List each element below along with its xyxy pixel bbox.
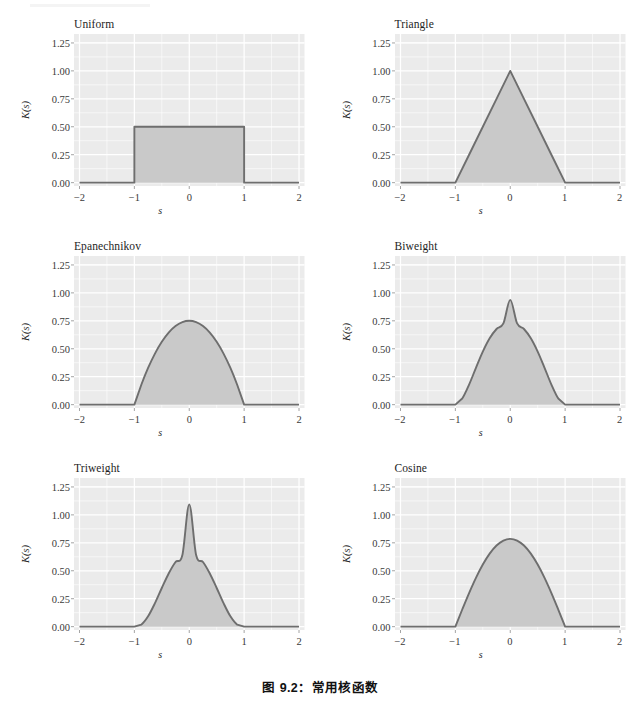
y-tick-label: 0.00 [372, 399, 390, 410]
panel-title: Cosine [395, 462, 428, 474]
y-tick-label: 0.25 [372, 593, 390, 604]
x-tick-label: −2 [74, 414, 85, 425]
x-tick-label: 2 [617, 414, 622, 425]
y-axis-label: K(s) [340, 323, 351, 341]
x-tick-label: −2 [394, 414, 405, 425]
y-tick-label: 1.00 [372, 509, 390, 520]
x-tick-label: 2 [296, 414, 301, 425]
y-tick-label: 0.50 [52, 343, 70, 354]
x-tick-label: −1 [129, 192, 140, 203]
y-tick-label: 1.00 [372, 287, 390, 298]
x-tick-label: 1 [562, 192, 567, 203]
x-tick-label: −1 [449, 636, 460, 647]
x-axis-label: s [321, 649, 641, 660]
y-tick-label: 0.25 [52, 593, 70, 604]
panel-uniform: Uniform0.000.250.500.751.001.25−2−1012K(… [0, 10, 321, 232]
y-tick-label: 0.50 [372, 343, 390, 354]
x-tick-label: 0 [507, 636, 512, 647]
x-tick-label: 1 [242, 636, 247, 647]
y-tick-label: 1.00 [372, 65, 390, 76]
page-artifact [30, 4, 150, 7]
y-tick-label: 0.75 [52, 315, 70, 326]
x-tick-label: 1 [242, 414, 247, 425]
y-tick-label: 0.25 [52, 149, 70, 160]
panel-triweight: Triweight0.000.250.500.751.001.25−2−1012… [0, 454, 321, 676]
x-tick-label: −2 [394, 636, 405, 647]
x-axis-label: s [0, 649, 321, 660]
x-tick-label: 1 [242, 192, 247, 203]
y-axis-label: K(s) [20, 545, 31, 563]
x-axis-label: s [321, 205, 641, 216]
x-tick-label: 2 [296, 192, 301, 203]
y-tick-label: 0.75 [52, 93, 70, 104]
x-tick-label: 0 [187, 414, 192, 425]
panel-title: Triangle [395, 18, 434, 30]
panel-title: Biweight [395, 240, 438, 252]
y-axis-label: K(s) [20, 101, 31, 119]
y-tick-label: 0.75 [372, 93, 390, 104]
x-tick-label: −2 [394, 192, 405, 203]
panel-grid: Uniform0.000.250.500.751.001.25−2−1012K(… [0, 10, 641, 676]
y-tick-label: 0.50 [372, 565, 390, 576]
x-axis-label: s [321, 427, 641, 438]
x-tick-label: −2 [74, 636, 85, 647]
figure-caption: 图 9.2：常用核函数 [0, 677, 641, 696]
kernel-functions-figure: Uniform0.000.250.500.751.001.25−2−1012K(… [0, 0, 641, 706]
x-tick-label: −1 [449, 192, 460, 203]
panel-epanechnikov: Epanechnikov0.000.250.500.751.001.25−2−1… [0, 232, 321, 454]
y-tick-label: 0.50 [372, 121, 390, 132]
x-tick-label: 2 [617, 636, 622, 647]
y-axis-label: K(s) [20, 323, 31, 341]
y-tick-label: 0.50 [52, 565, 70, 576]
x-tick-label: 0 [187, 192, 192, 203]
y-tick-label: 0.75 [52, 537, 70, 548]
x-tick-label: −1 [129, 636, 140, 647]
y-tick-label: 1.25 [372, 259, 390, 270]
y-tick-label: 0.25 [372, 149, 390, 160]
y-tick-label: 1.25 [52, 259, 70, 270]
x-tick-label: 0 [187, 636, 192, 647]
y-tick-label: 1.00 [52, 509, 70, 520]
x-tick-label: 1 [562, 636, 567, 647]
y-tick-label: 0.00 [372, 621, 390, 632]
x-axis-label: s [0, 205, 321, 216]
x-axis-label: s [0, 427, 321, 438]
x-tick-label: 0 [507, 192, 512, 203]
panel-title: Triweight [74, 462, 120, 474]
x-tick-label: 0 [507, 414, 512, 425]
y-tick-label: 0.25 [372, 371, 390, 382]
y-tick-label: 0.75 [372, 315, 390, 326]
y-tick-label: 0.50 [52, 121, 70, 132]
y-tick-label: 1.25 [372, 37, 390, 48]
y-tick-label: 1.00 [52, 287, 70, 298]
x-tick-label: 2 [296, 636, 301, 647]
x-tick-label: −1 [449, 414, 460, 425]
y-tick-label: 0.25 [52, 371, 70, 382]
panel-title: Epanechnikov [74, 240, 141, 252]
y-tick-label: 1.25 [52, 481, 70, 492]
y-tick-label: 1.25 [372, 481, 390, 492]
y-tick-label: 0.00 [52, 399, 70, 410]
panel-cosine: Cosine0.000.250.500.751.001.25−2−1012K(s… [321, 454, 641, 676]
y-tick-label: 0.00 [52, 177, 70, 188]
panel-biweight: Biweight0.000.250.500.751.001.25−2−1012K… [321, 232, 641, 454]
panel-triangle: Triangle0.000.250.500.751.001.25−2−1012K… [321, 10, 641, 232]
x-tick-label: 1 [562, 414, 567, 425]
y-axis-label: K(s) [340, 101, 351, 119]
y-tick-label: 0.00 [372, 177, 390, 188]
panel-title: Uniform [74, 18, 114, 30]
y-tick-label: 0.75 [372, 537, 390, 548]
x-tick-label: −2 [74, 192, 85, 203]
y-axis-label: K(s) [340, 545, 351, 563]
x-tick-label: −1 [129, 414, 140, 425]
y-tick-label: 1.25 [52, 37, 70, 48]
y-tick-label: 1.00 [52, 65, 70, 76]
x-tick-label: 2 [617, 192, 622, 203]
y-tick-label: 0.00 [52, 621, 70, 632]
